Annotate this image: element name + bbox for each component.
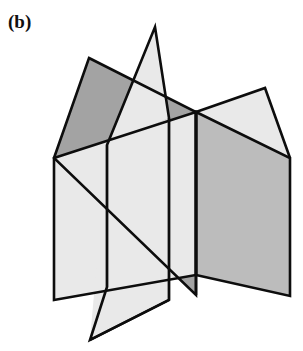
- intersecting-planes-diagram: [0, 0, 303, 351]
- figure-container: (b): [0, 0, 303, 351]
